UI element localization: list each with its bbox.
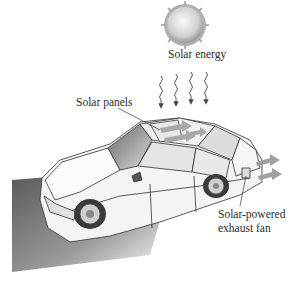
diagram-canvas <box>0 0 291 281</box>
sun-icon <box>161 1 209 49</box>
solar-ray-arrows <box>160 72 208 106</box>
solar-panels-label: Solar panels <box>76 96 133 109</box>
solar-energy-label: Solar energy <box>168 48 226 61</box>
exhaust-fan-label-line1: Solar-powered <box>218 208 285 221</box>
rear-wheel <box>203 174 229 198</box>
exhaust-fan-label-line2: exhaust fan <box>218 222 271 235</box>
solar-car-diagram: Solar energy Solar panels Solar-powered … <box>0 0 291 281</box>
front-wheel <box>74 199 106 229</box>
